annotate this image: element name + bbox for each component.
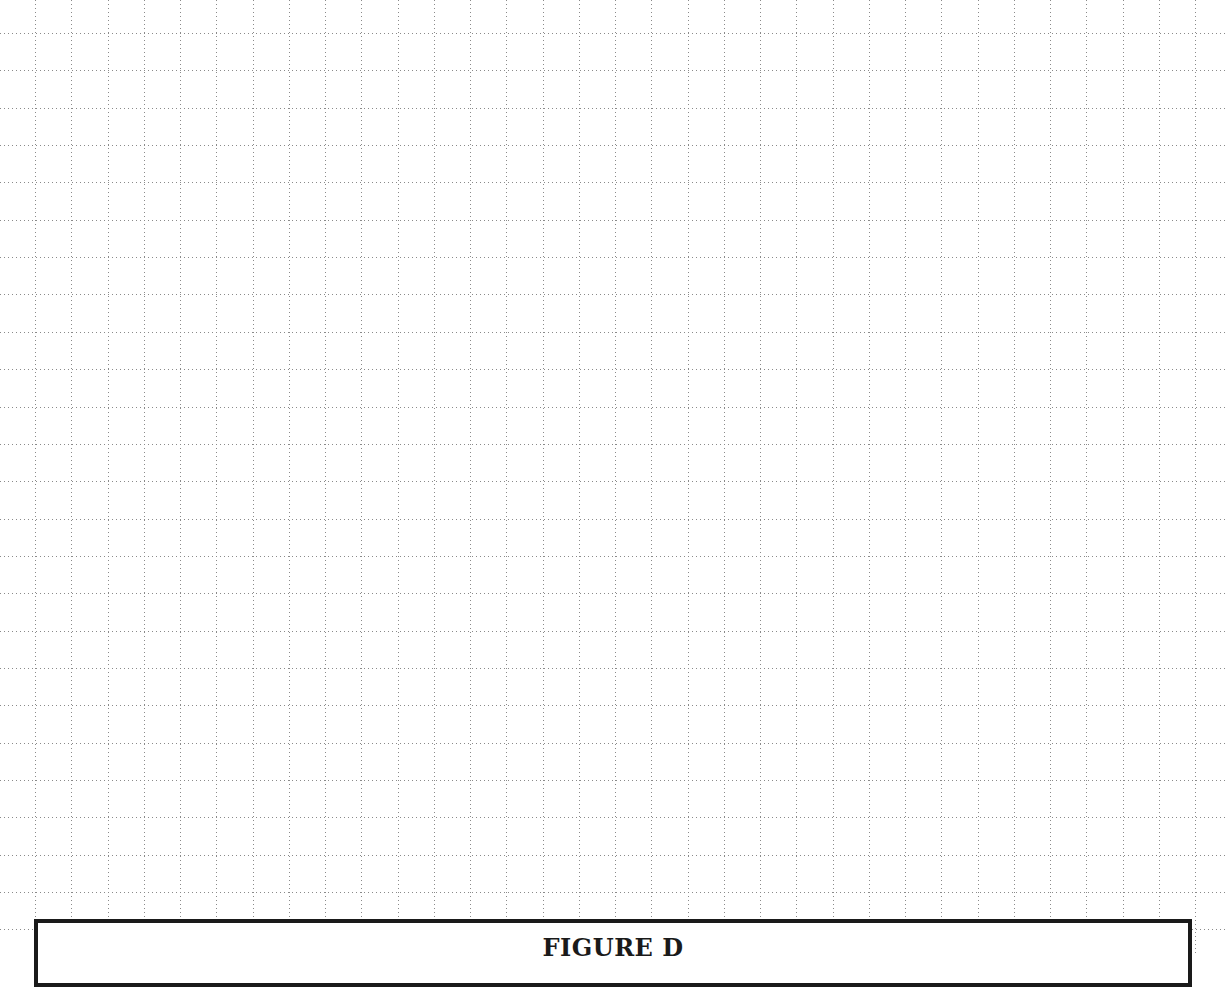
figure-title: FIGURE D [38, 933, 1188, 962]
figure-caption-box: FIGURE D [34, 919, 1192, 987]
